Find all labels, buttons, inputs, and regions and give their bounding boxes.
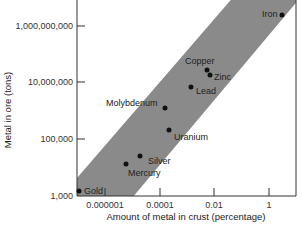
point-label-molybdenum: Molybdenum <box>106 98 158 108</box>
point-label-uranium: Uranium <box>174 132 208 142</box>
point-molybdenum <box>163 106 168 111</box>
point-label-silver: Silver <box>148 156 171 166</box>
y-axis-title: Metal in ore (tons) <box>2 72 13 149</box>
x-tick-label: 0.0001 <box>146 200 174 210</box>
point-lead <box>189 85 194 90</box>
point-uranium <box>167 128 172 133</box>
x-tick-label: 1 <box>266 200 271 210</box>
x-tick-label: 0.000001 <box>86 200 124 210</box>
y-tick-label: 1,000,000,000 <box>15 21 73 31</box>
point-label-mercury: Mercury <box>128 168 161 178</box>
point-silver <box>138 154 143 159</box>
point-iron <box>280 13 285 18</box>
point-zinc <box>208 73 213 78</box>
x-tick-label: 0.01 <box>205 200 223 210</box>
point-copper <box>205 68 210 73</box>
point-mercury <box>124 162 129 167</box>
y-tick-label: 100,000 <box>40 134 73 144</box>
point-label-copper: Copper <box>185 56 215 66</box>
y-tick-label: 10,000,000 <box>28 77 73 87</box>
y-axis-ticks <box>77 26 85 139</box>
point-label-gold: Gold <box>84 186 103 196</box>
scatter-chart: 1,000,000,000 10,000,000 100,000 1,000 0… <box>0 0 302 227</box>
y-tick-label: 1,000 <box>50 191 73 201</box>
point-label-zinc: Zinc <box>214 72 232 82</box>
point-label-lead: Lead <box>196 86 216 96</box>
point-gold <box>77 189 82 194</box>
x-axis-title: Amount of metal in crust (percentage) <box>107 211 266 222</box>
point-label-iron: Iron <box>262 9 278 19</box>
